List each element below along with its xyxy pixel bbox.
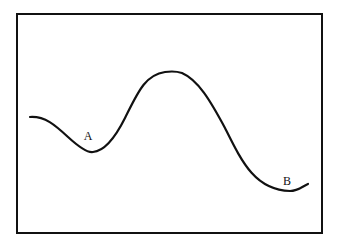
curve-diagram: A B bbox=[0, 0, 337, 245]
energy-curve bbox=[30, 71, 308, 191]
label-a: A bbox=[84, 129, 93, 143]
diagram-frame bbox=[17, 14, 322, 233]
label-b: B bbox=[283, 174, 291, 188]
